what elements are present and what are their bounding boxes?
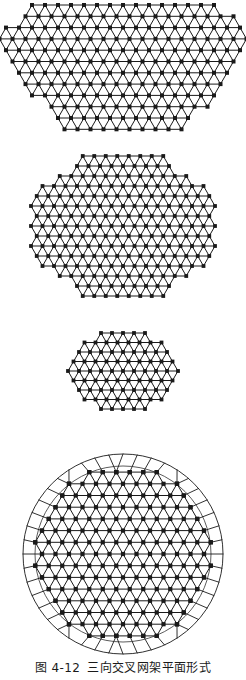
truss-grid-svg	[0, 448, 246, 660]
figure-caption-title: 三向交叉网架平面形式	[87, 661, 211, 675]
grid-nodes	[0, 3, 246, 131]
figure-page: 图 4-12三向交叉网架平面形式	[0, 0, 246, 680]
truss-grid-svg	[0, 0, 246, 148]
figure-octagon-plan	[0, 150, 246, 302]
grid-members	[0, 5, 246, 129]
figure-circle-plan	[0, 448, 246, 660]
figure-caption-number: 图 4-12	[35, 661, 80, 675]
figure-hexagon-plan	[0, 330, 246, 412]
figure-caption: 图 4-12三向交叉网架平面形式	[0, 661, 246, 680]
truss-grid-svg	[0, 330, 246, 412]
figure-trapezoid-plan	[0, 0, 246, 148]
truss-grid-svg	[0, 150, 246, 302]
